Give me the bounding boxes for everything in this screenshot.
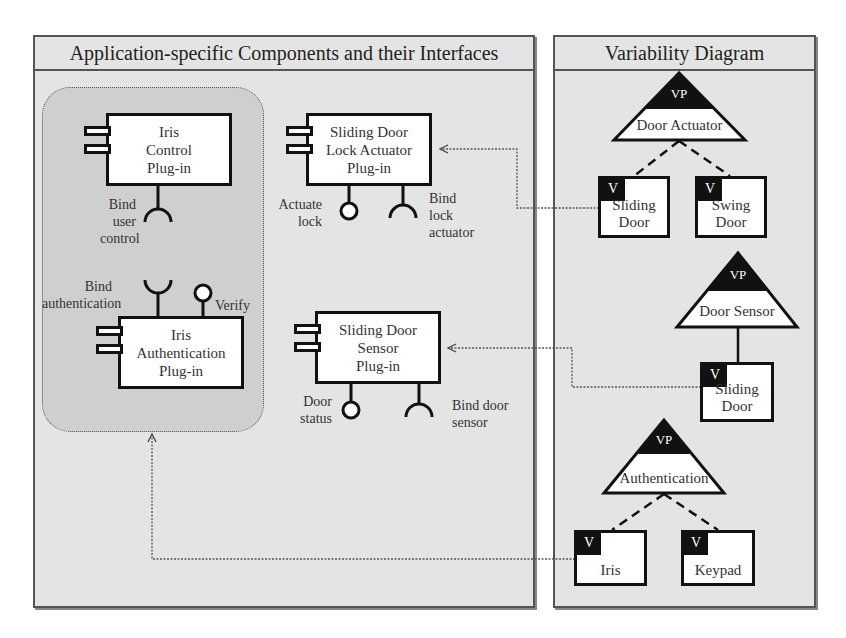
vp-tag: VP [664,86,694,102]
vp-label-authentication: Authentication [604,470,724,487]
provided-interface-icon [341,186,357,219]
variant-tag: V [577,533,601,555]
variant-tag: V [684,533,708,555]
variant-keypad[interactable]: V Keypad [681,530,755,586]
provided-interface-icon [195,285,211,316]
required-interface-icon [406,384,432,417]
variant-swing-door[interactable]: V Swing Door [695,176,767,238]
vp-label-door-actuator: Door Actuator [614,117,745,134]
required-interface-icon [145,280,171,316]
variant-iris[interactable]: V Iris [574,530,647,586]
required-interface-icon [145,186,171,222]
provided-interface-icon [343,384,359,418]
vp-label-door-sensor: Door Sensor [677,303,797,320]
vp-tag: VP [723,267,753,283]
required-interface-icon [390,186,416,218]
vp-tag: VP [649,432,679,448]
variant-sliding-door-sensor[interactable]: V Sliding Door [700,362,774,422]
variant-sliding-door-actuator[interactable]: V Sliding Door [598,176,670,238]
